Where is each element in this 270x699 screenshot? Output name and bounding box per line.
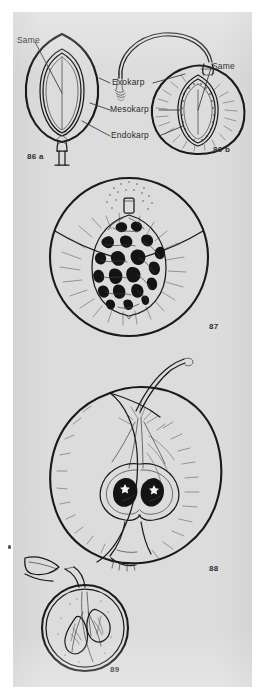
label-endokarp: Endokarp (111, 131, 149, 140)
illustration-plate: .ln { fill:none; stroke:#1a1a1a; stroke-… (13, 12, 252, 687)
figure-88 (25, 358, 221, 581)
figure-86a (26, 34, 98, 165)
label-exokarp: Exokarp (112, 78, 145, 87)
label-same-right: Same (212, 62, 235, 71)
label-mesokarp: Mesokarp (110, 105, 149, 114)
figure-number-87: 87 (209, 323, 219, 331)
figure-89 (42, 567, 128, 671)
ink-speck (8, 545, 11, 549)
figure-number-86b: 86 b (213, 146, 230, 154)
label-same-left: Same (17, 36, 40, 45)
figure-number-89: 89 (110, 666, 120, 674)
figure-87 (50, 177, 208, 336)
label-leader-lines (35, 42, 211, 136)
figure-number-86a: 86 a (27, 153, 44, 161)
figure-number-88: 88 (209, 565, 219, 573)
